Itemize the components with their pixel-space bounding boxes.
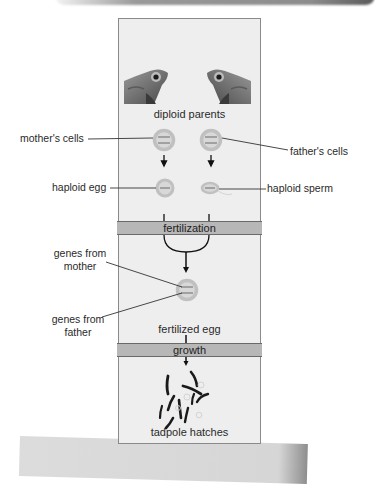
tadpole-hatches-label: tadpole hatches (118, 426, 261, 439)
genes-mother-line1: genes from (40, 247, 120, 260)
fathers-cells-label: father's cells (290, 145, 348, 158)
genes-mother-line2: mother (40, 260, 120, 273)
haploid-sperm-label: haploid sperm (267, 182, 333, 195)
fertilization-bar: fertilization (117, 221, 262, 235)
genes-father-line2: father (38, 326, 118, 339)
growth-bar: growth (117, 343, 262, 357)
genes-from-mother-label: genes from mother (40, 247, 120, 273)
mothers-cells-label: mother's cells (20, 132, 84, 145)
genes-father-line1: genes from (38, 313, 118, 326)
tadpoles-icon (160, 372, 208, 428)
haploid-egg-label: haploid egg (52, 181, 106, 194)
zygote-icon (178, 281, 197, 300)
genes-from-father-label: genes from father (38, 313, 118, 339)
fertilized-egg-label: fertilized egg (118, 323, 261, 336)
diploid-cell-icon (155, 131, 221, 150)
